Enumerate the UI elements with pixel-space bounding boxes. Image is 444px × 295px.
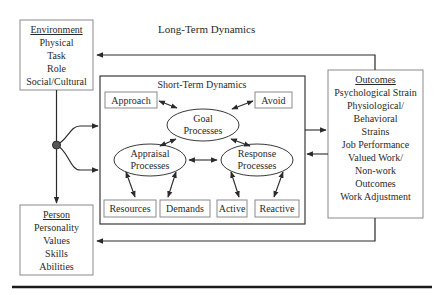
svg-text:Resources: Resources	[109, 203, 150, 214]
response-processes-node: Response Processes	[221, 144, 293, 176]
outcomes-title: Outcomes	[355, 74, 396, 85]
svg-text:Processes: Processes	[131, 160, 170, 171]
outcomes-box: Outcomes Psychological Strain Physiologi…	[328, 70, 423, 218]
outcomes-item: Psychological Strain	[334, 87, 417, 98]
svg-text:Appraisal: Appraisal	[131, 148, 170, 159]
outcomes-to-environment-arrow	[97, 55, 375, 70]
svg-text:Approach: Approach	[111, 95, 150, 106]
svg-text:Processes: Processes	[238, 160, 277, 171]
avoid-box: Avoid	[255, 92, 292, 108]
svg-text:Reactive: Reactive	[260, 203, 296, 214]
junction-to-short-term-lower-arrow	[57, 145, 99, 170]
active-box: Active	[217, 200, 247, 217]
svg-text:Avoid: Avoid	[261, 95, 285, 106]
svg-text:Demands: Demands	[166, 203, 204, 214]
svg-text:Processes: Processes	[184, 125, 223, 136]
svg-text:Active: Active	[219, 203, 246, 214]
demands-box: Demands	[160, 200, 210, 217]
appraisal-processes-node: Appraisal Processes	[114, 144, 186, 176]
outcomes-item: Strains	[362, 126, 390, 137]
reactive-box: Reactive	[255, 200, 299, 217]
environment-title: Environment	[30, 24, 82, 35]
svg-text:Goal: Goal	[193, 113, 213, 124]
environment-item: Physical	[40, 37, 74, 48]
outcomes-item: Non-work	[355, 165, 396, 176]
person-item: Abilities	[39, 261, 74, 272]
environment-item: Role	[47, 63, 66, 74]
person-box: Person Personality Values Skills Abiliti…	[20, 205, 93, 275]
long-term-dynamics-label: Long-Term Dynamics	[158, 23, 255, 35]
goal-processes-node: Goal Processes	[167, 109, 239, 141]
person-item: Skills	[45, 248, 68, 259]
outcomes-item: Physiological/	[347, 100, 404, 111]
environment-item: Task	[47, 50, 66, 61]
outcomes-item: Valued Work/	[348, 152, 403, 163]
resources-box: Resources	[104, 200, 156, 217]
environment-box: Environment Physical Task Role Social/Cu…	[20, 20, 93, 90]
outcomes-item: Behavioral	[354, 113, 398, 124]
person-item: Personality	[34, 222, 79, 233]
person-title: Person	[43, 209, 70, 220]
person-item: Values	[43, 235, 70, 246]
outcomes-item: Job Performance	[342, 139, 410, 150]
svg-text:Response: Response	[238, 148, 277, 159]
environment-item: Social/Cultural	[26, 76, 87, 87]
short-term-dynamics-label: Short-Term Dynamics	[157, 79, 246, 90]
dynamics-diagram: Long-Term Dynamics Environment Physical …	[0, 0, 444, 295]
outcomes-item: Outcomes	[355, 178, 396, 189]
junction-node	[53, 141, 61, 149]
approach-box: Approach	[105, 92, 157, 108]
junction-to-short-term-upper-arrow	[57, 126, 99, 145]
outcomes-item: Work Adjustment	[340, 191, 411, 202]
